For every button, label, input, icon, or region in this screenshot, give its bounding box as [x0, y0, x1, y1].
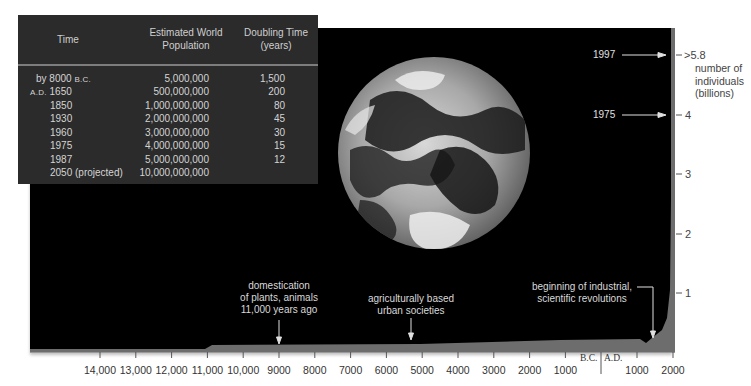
y-tick: 1	[685, 287, 691, 299]
y-axis-title-line: number of	[695, 62, 744, 75]
cell-time: 1975	[50, 139, 150, 152]
cell-doubling: 12	[274, 153, 285, 166]
x-tick: 8000	[303, 364, 326, 376]
x-tick: 6000	[375, 364, 398, 376]
earth-image	[338, 57, 530, 250]
header-doubling-line1: Doubling Time	[238, 26, 314, 39]
cell-doubling: 45	[274, 112, 285, 125]
x-tick: 2000	[518, 364, 541, 376]
y-tick: 3	[685, 168, 691, 180]
cell-time: A.D. 1650	[30, 85, 130, 99]
x-tick: 11,000	[192, 364, 223, 376]
x-tick: 13,000	[120, 364, 152, 376]
y-axis-title-line: individuals	[695, 75, 744, 88]
annotation-line: urban societies	[363, 305, 459, 317]
cell-time: 1987	[50, 153, 150, 166]
cell-population: 2,000,000,000	[145, 112, 209, 125]
arrow-1975	[622, 113, 666, 118]
annotation-line: of plants, animals	[234, 292, 324, 304]
table-row: 1987 5,000,000,000 12	[18, 153, 318, 166]
cell-doubling: 200	[268, 85, 285, 98]
y-axis	[676, 55, 682, 293]
cell-time: by 8000 B.C.	[36, 72, 136, 86]
cell-population: 5,000,000	[165, 72, 210, 85]
annotation-industrial: beginning of industrial, scientific revo…	[527, 281, 637, 305]
population-growth-figure: Time Estimated World Population Doubling…	[0, 0, 751, 386]
x-tick: 9000	[267, 364, 290, 376]
table-row: A.D. 1650 500,000,000 200	[18, 85, 318, 98]
cell-time: 1930	[50, 112, 150, 125]
cell-population: 10,000,000,000	[139, 166, 209, 179]
cell-doubling: 80	[274, 99, 285, 112]
table-row: 1930 2,000,000,000 45	[18, 112, 318, 125]
table-row: 1975 4,000,000,000 15	[18, 139, 318, 152]
population-table: Time Estimated World Population Doubling…	[18, 15, 318, 184]
x-tick: 1000	[554, 364, 577, 376]
x-tick: 14,000	[84, 364, 116, 376]
annotation-domestication: domestication of plants, animals 11,000 …	[234, 280, 324, 316]
header-population-line2: Population	[136, 39, 236, 52]
annotation-line: agriculturally based	[363, 293, 459, 305]
header-doubling: Doubling Time (years)	[238, 26, 314, 52]
annotation-line: scientific revolutions	[527, 293, 637, 305]
table-row: 1960 3,000,000,000 30	[18, 126, 318, 139]
x-tick: 2000	[661, 364, 684, 376]
arrow-urban	[409, 318, 414, 340]
x-tick: 3000	[482, 364, 505, 376]
x-tick: 12,000	[156, 364, 188, 376]
header-divider	[18, 64, 318, 66]
annotation-urban: agriculturally based urban societies	[363, 293, 459, 317]
era-ad-label: A.D.	[604, 353, 622, 363]
header-population: Estimated World Population	[136, 26, 236, 52]
x-tick: 5000	[411, 364, 434, 376]
label-1975: 1975	[593, 109, 615, 121]
y-axis-title-line: (billions)	[695, 87, 744, 100]
table-row: by 8000 B.C. 5,000,000 1,500	[18, 72, 318, 85]
annotation-line: beginning of industrial,	[527, 281, 637, 293]
arrow-domestication	[277, 320, 282, 344]
cell-doubling: 1,500	[260, 72, 285, 85]
cell-doubling: 30	[274, 126, 285, 139]
cell-time: 1960	[50, 126, 150, 139]
cell-population: 5,000,000,000	[145, 153, 209, 166]
y-axis-strip	[671, 28, 675, 352]
arrow-industrial	[637, 287, 656, 338]
x-tick: 4000	[446, 364, 469, 376]
cell-population: 1,000,000,000	[145, 99, 209, 112]
table-row: 2050 (projected) 10,000,000,000	[18, 166, 318, 179]
y-tick: 4	[685, 109, 691, 121]
header-population-line1: Estimated World	[136, 26, 236, 39]
arrow-1997	[622, 53, 666, 58]
era-bc-label: B.C.	[580, 353, 597, 363]
table-row: 1850 1,000,000,000 80	[18, 99, 318, 112]
cell-population: 500,000,000	[153, 85, 209, 98]
x-tick: 7000	[339, 364, 362, 376]
y-tick-top: >5.8	[684, 49, 706, 61]
x-tick: 1000	[625, 364, 648, 376]
cell-population: 3,000,000,000	[145, 126, 209, 139]
y-tick: 2	[685, 228, 691, 240]
cell-population: 4,000,000,000	[145, 139, 209, 152]
y-axis-title: number of individuals (billions)	[695, 62, 744, 100]
cell-doubling: 15	[274, 139, 285, 152]
annotation-line: 11,000 years ago	[234, 304, 324, 316]
label-1997: 1997	[593, 49, 615, 61]
header-doubling-line2: (years)	[238, 39, 314, 52]
x-tick: 10,000	[227, 364, 259, 376]
header-time: Time	[36, 33, 100, 46]
cell-time: 1850	[50, 99, 150, 112]
annotation-line: domestication	[234, 280, 324, 292]
